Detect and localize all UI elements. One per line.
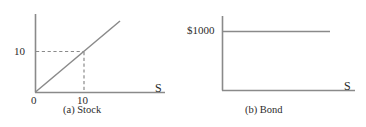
stock-payoff-line (36, 21, 121, 92)
panel-stock: 10 0 10 S (a) Stock (0, 0, 183, 127)
stock-origin-tick-label: 0 (31, 95, 37, 106)
bond-caption: (b) Bond (245, 105, 283, 116)
stock-y-tick-label: 10 (14, 46, 25, 57)
panel-bond: $1000 S (b) Bond (183, 0, 366, 127)
bond-y-tick-label: $1000 (187, 25, 215, 36)
stock-caption: (a) Stock (63, 105, 101, 116)
bond-x-axis-variable-label: S (344, 80, 351, 92)
figure-two-payoff-diagrams: 10 0 10 S (a) Stock $1000 S (b) Bond (0, 0, 366, 127)
stock-x-axis-variable-label: S (155, 82, 162, 94)
